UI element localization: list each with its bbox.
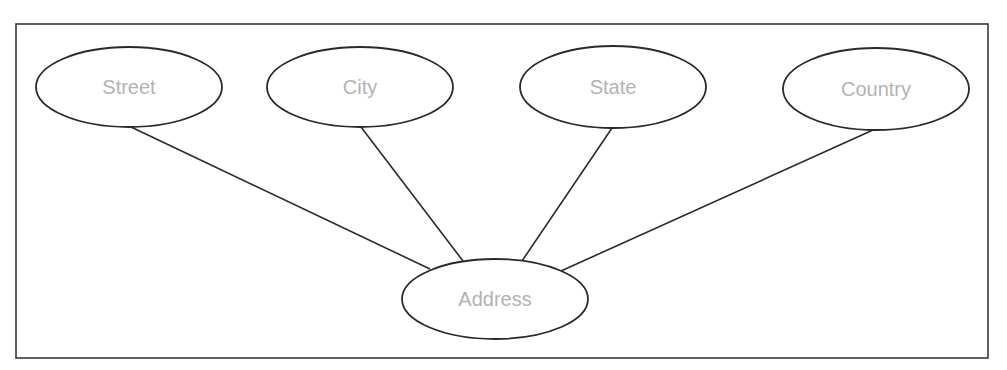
- edges-group: [131, 127, 873, 271]
- nodes-group: StreetCityStateCountryAddress: [36, 46, 969, 339]
- node-street: Street: [36, 47, 222, 127]
- edge-street-to-address: [131, 127, 430, 269]
- node-address: Address: [402, 259, 588, 339]
- label-street: Street: [102, 76, 156, 98]
- label-state: State: [590, 76, 637, 98]
- label-city: City: [343, 76, 377, 98]
- node-city: City: [267, 47, 453, 127]
- label-country: Country: [841, 78, 911, 100]
- address-attribute-diagram: StreetCityStateCountryAddress: [0, 0, 1007, 370]
- node-country: Country: [783, 48, 969, 130]
- node-state: State: [520, 46, 706, 128]
- edge-city-to-address: [361, 127, 463, 261]
- edge-country-to-address: [561, 130, 873, 271]
- edge-state-to-address: [522, 128, 612, 261]
- label-address: Address: [458, 288, 531, 310]
